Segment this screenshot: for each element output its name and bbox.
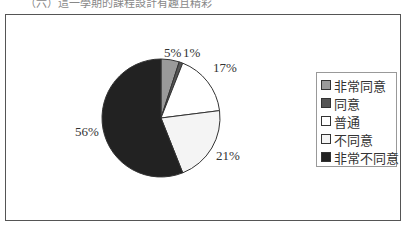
legend-item-very-agree: 非常同意: [317, 76, 396, 94]
legend-item-neutral: 普通: [317, 112, 396, 130]
slice-label-very-agree: 5%: [164, 45, 181, 61]
legend-swatch-icon: [321, 98, 331, 108]
legend-item-disagree: 不同意: [317, 130, 396, 148]
legend-item-very-disagree: 非常不同意: [317, 148, 396, 166]
legend-swatch-icon: [321, 116, 331, 126]
legend-swatch-icon: [321, 134, 331, 144]
slice-label-disagree: 21%: [216, 148, 240, 164]
legend-item-agree: 同意: [317, 94, 396, 112]
slice-label-neutral: 17%: [213, 60, 237, 76]
legend-swatch-icon: [321, 152, 331, 162]
slice-label-very-disagree: 56%: [75, 124, 99, 140]
legend-swatch-icon: [321, 80, 331, 90]
slice-label-agree: 1%: [183, 45, 200, 61]
chart-legend: 非常同意 同意 普通 不同意 非常不同意: [316, 72, 397, 167]
